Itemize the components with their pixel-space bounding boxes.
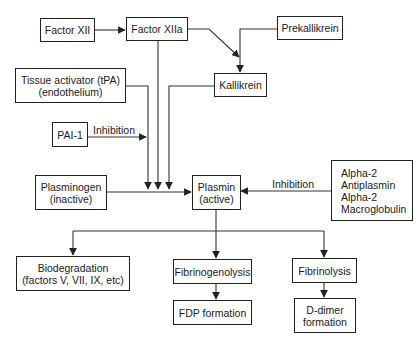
node-label-line-1: Alpha-2 [341, 167, 377, 179]
node-label-line-2: (factors V, VII, IX, etc) [22, 274, 124, 286]
arrow-xiia-to-kallikrein [188, 29, 239, 57]
node-label-line-2: formation [303, 316, 347, 328]
node-fibrinolysis: Fibrinolysis [292, 258, 357, 283]
node-plasminogen: Plasminogen (inactive) [35, 175, 107, 210]
edge-label-alpha2-inhibition: Inhibition [272, 178, 314, 190]
node-factor-xii: Factor XII [40, 18, 95, 42]
node-label-line-1: D-dimer [306, 304, 343, 316]
node-fdp-formation: FDP formation [173, 300, 252, 325]
node-kallikrein: Kallikrein [214, 73, 267, 97]
node-label: Fibrinolysis [298, 265, 351, 277]
node-label: Fibrinogenolysis [175, 266, 251, 278]
node-label-line-1: Biodegradation [38, 262, 109, 274]
node-label-line-2: (inactive) [50, 193, 93, 205]
node-label: PAI-1 [57, 129, 82, 141]
node-plasmin: Plasmin (active) [192, 175, 241, 210]
edge-label-pai1-inhibition: Inhibition [93, 124, 135, 136]
node-label: Kallikrein [219, 79, 262, 91]
node-tissue-activator: Tissue activator (tPA) (endothelium) [15, 68, 126, 103]
node-label-line-2: (active) [199, 193, 233, 205]
arrow-kallikrein-down [169, 86, 214, 189]
node-label-line-1: Plasmin [198, 181, 235, 193]
node-alpha2-inhibitors: Alpha-2 Antiplasmin Alpha-2 Macroglobuli… [331, 160, 413, 221]
node-label: Factor XII [45, 24, 91, 36]
node-label-line-1: Tissue activator (tPA) [21, 74, 120, 86]
node-factor-xiia: Factor XIIa [126, 17, 188, 41]
node-label-line-2: Antiplasmin [341, 179, 395, 191]
node-prekallikrein: Prekallikrein [277, 16, 343, 40]
node-label-line-2: (endothelium) [38, 86, 102, 98]
node-label: FDP formation [179, 307, 247, 319]
node-d-dimer-formation: D-dimer formation [294, 298, 356, 333]
node-pai-1: PAI-1 [52, 122, 88, 147]
node-fibrinogenolysis: Fibrinogenolysis [173, 259, 252, 284]
node-label: Prekallikrein [281, 22, 338, 34]
fibrinolysis-diagram: Factor XII Factor XIIa Prekallikrein Kal… [0, 0, 417, 343]
arrow-prekallikrein-to-kallikrein [240, 29, 277, 72]
node-label-line-1: Plasminogen [41, 181, 102, 193]
node-label: Factor XIIa [131, 23, 182, 35]
node-biodegradation: Biodegradation (factors V, VII, IX, etc) [16, 256, 130, 291]
node-label-line-4: Macroglobulin [341, 203, 406, 215]
node-label-line-3: Alpha-2 [341, 191, 377, 203]
